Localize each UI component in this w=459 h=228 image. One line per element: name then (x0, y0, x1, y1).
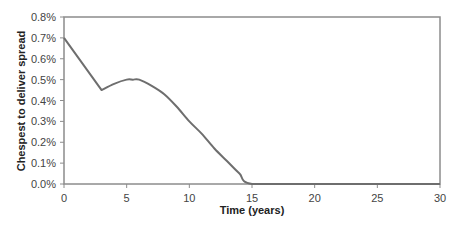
x-axis-title: Time (years) (220, 204, 285, 216)
y-tick-label: 0.7% (31, 32, 56, 44)
x-tick-label: 20 (309, 192, 321, 204)
y-tick-label: 0.0% (31, 178, 56, 190)
y-tick-label: 0.4% (31, 95, 56, 107)
y-axis-title: Chespest to deliver spread (15, 31, 27, 172)
y-tick-label: 0.8% (31, 11, 56, 23)
x-tick-label: 15 (246, 192, 258, 204)
y-axis: 0.0%0.1%0.2%0.3%0.4%0.5%0.6%0.7%0.8% (31, 11, 64, 190)
y-tick-label: 0.6% (31, 53, 56, 65)
plot-frame (64, 17, 440, 184)
x-tick-label: 10 (183, 192, 195, 204)
x-tick-label: 5 (124, 192, 130, 204)
x-tick-label: 25 (371, 192, 383, 204)
y-tick-label: 0.2% (31, 136, 56, 148)
x-tick-label: 30 (434, 192, 446, 204)
data-line (64, 38, 440, 184)
y-tick-label: 0.5% (31, 74, 56, 86)
x-axis: 051015202530 (61, 184, 446, 204)
x-tick-label: 0 (61, 192, 67, 204)
y-tick-label: 0.3% (31, 115, 56, 127)
y-tick-label: 0.1% (31, 157, 56, 169)
plot-border (64, 17, 440, 184)
chart: 0.0%0.1%0.2%0.3%0.4%0.5%0.6%0.7%0.8% 051… (0, 0, 459, 228)
